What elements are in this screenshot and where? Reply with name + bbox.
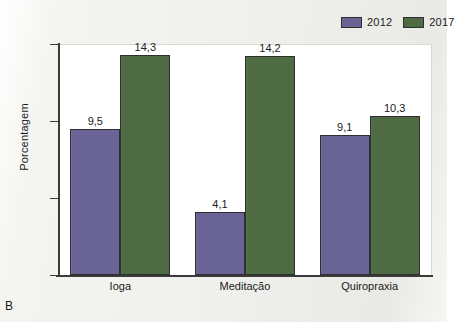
bar-quiropraxia-2012[interactable]: 9,1 <box>320 135 370 275</box>
bar-value-label: 9,1 <box>337 122 352 133</box>
bar-value-label: 14,2 <box>259 43 280 54</box>
y-axis-tick-10 <box>50 121 58 122</box>
panel-letter: B <box>5 300 13 312</box>
bar-meditao-2012[interactable]: 4,1 <box>195 212 245 275</box>
legend-swatch-icon-2017 <box>403 17 424 28</box>
legend-label-2012: 2012 <box>367 17 392 28</box>
y-axis-line <box>58 43 60 276</box>
legend-entry-2017[interactable]: 2017 <box>403 17 454 28</box>
bar-value-label: 4,1 <box>212 199 227 210</box>
bar-meditao-2017[interactable]: 14,2 <box>245 56 295 275</box>
bar-value-label: 10,3 <box>384 103 405 114</box>
bar-value-label: 9,5 <box>88 116 103 127</box>
bar-ioga-2012[interactable]: 9,5 <box>70 129 120 275</box>
category-label-ioga: Ioga <box>58 281 183 292</box>
y-axis-tick-0 <box>50 275 58 276</box>
x-axis-line <box>56 275 433 277</box>
legend-swatch-icon-2012 <box>341 17 362 28</box>
y-axis-tick-5 <box>50 198 58 199</box>
legend-label-2017: 2017 <box>429 17 454 28</box>
category-label-meditao: Meditação <box>183 281 308 292</box>
y-axis-tick-15 <box>50 44 58 45</box>
legend-entry-2012[interactable]: 2012 <box>341 17 392 28</box>
y-axis-title: Porcentagem <box>18 92 30 182</box>
bar-ioga-2017[interactable]: 14,3 <box>120 55 170 275</box>
bar-quiropraxia-2017[interactable]: 10,3 <box>370 116 420 275</box>
chart-legend: 2012 2017 <box>341 17 455 28</box>
category-label-quiropraxia: Quiropraxia <box>307 281 432 292</box>
bar-value-label: 14,3 <box>135 42 156 53</box>
